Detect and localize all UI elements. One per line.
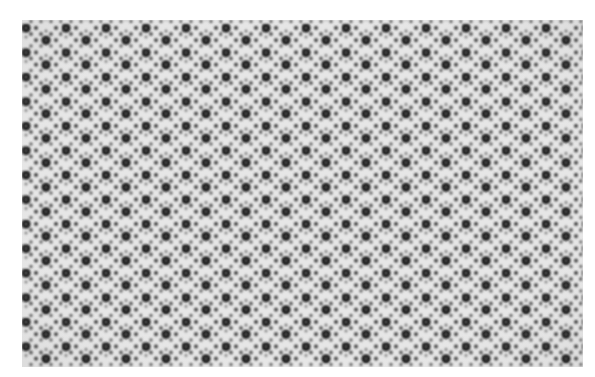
micrograph-image bbox=[22, 20, 583, 367]
lattice-pattern bbox=[22, 20, 583, 367]
